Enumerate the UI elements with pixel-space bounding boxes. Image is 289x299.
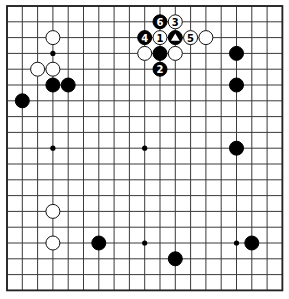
black-stone	[15, 94, 29, 108]
black-stone-labeled: 6	[153, 15, 167, 29]
black-stone	[92, 236, 106, 250]
black-stone-disc	[46, 78, 60, 92]
white-stone	[46, 236, 60, 250]
black-stone-disc	[230, 46, 244, 60]
star-point	[50, 51, 55, 56]
star-point	[234, 240, 239, 245]
black-stone	[168, 252, 182, 266]
go-board: 634152	[0, 0, 289, 299]
move-number-label: 4	[141, 33, 148, 44]
white-stone	[168, 46, 182, 60]
move-number-label: 6	[157, 17, 164, 28]
black-stone-labeled: 4	[138, 31, 152, 45]
white-stone	[31, 62, 45, 76]
white-stone-disc	[46, 236, 60, 250]
white-stone-disc	[138, 46, 152, 60]
black-stone-labeled: 2	[153, 62, 167, 76]
black-stone	[61, 78, 75, 92]
black-stone	[153, 46, 167, 60]
white-stone	[46, 31, 60, 45]
white-stone-disc	[46, 31, 60, 45]
white-stone-disc	[31, 62, 45, 76]
star-point	[142, 240, 147, 245]
black-stone-disc	[15, 94, 29, 108]
white-stone	[46, 62, 60, 76]
white-stone-disc	[199, 31, 213, 45]
white-stone-disc	[168, 46, 182, 60]
black-stone-labeled	[168, 31, 182, 45]
white-stone	[46, 204, 60, 218]
star-point	[142, 146, 147, 151]
black-stone-disc	[245, 236, 259, 250]
move-number-label: 2	[157, 64, 164, 75]
white-stone-labeled: 3	[168, 15, 182, 29]
black-stone	[46, 78, 60, 92]
black-stone-disc	[230, 78, 244, 92]
white-stone-labeled: 1	[153, 31, 167, 45]
black-stone-disc	[153, 46, 167, 60]
white-stone	[199, 31, 213, 45]
white-stone-disc	[46, 204, 60, 218]
black-stone	[230, 78, 244, 92]
move-number-label: 3	[172, 17, 179, 28]
black-stone	[230, 46, 244, 60]
black-stone-disc	[230, 141, 244, 155]
black-stone-disc	[92, 236, 106, 250]
white-stone-disc	[46, 62, 60, 76]
black-stone	[245, 236, 259, 250]
black-stone-disc	[168, 252, 182, 266]
move-number-label: 5	[187, 33, 194, 44]
black-stone	[230, 141, 244, 155]
move-number-label: 1	[157, 33, 164, 44]
white-stone-labeled: 5	[184, 31, 198, 45]
star-point	[50, 146, 55, 151]
white-stone	[138, 46, 152, 60]
black-stone-disc	[61, 78, 75, 92]
